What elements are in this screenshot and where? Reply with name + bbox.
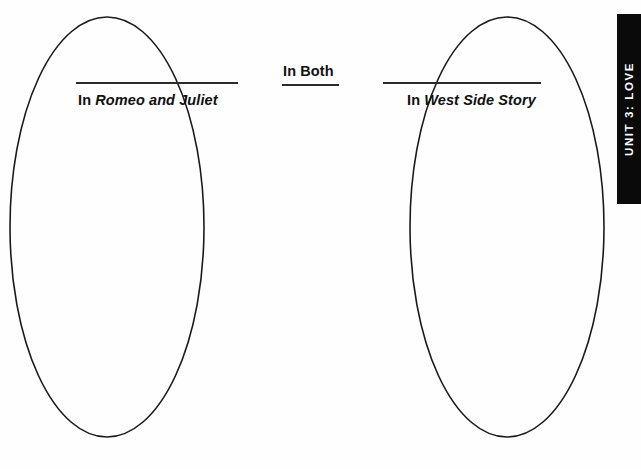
- write-in-rule-right[interactable]: [383, 82, 541, 84]
- label-both-text: In Both: [282, 64, 339, 79]
- label-left-prefix: In: [78, 92, 95, 108]
- label-left-title: Romeo and Juliet: [95, 92, 217, 108]
- unit-tab-label: UNIT 3: LOVE: [623, 62, 635, 156]
- venn-circle-left: [10, 17, 204, 437]
- label-group-left: In Romeo and Juliet: [76, 82, 238, 108]
- venn-circle-right: [410, 17, 604, 437]
- label-right-text: In West Side Story: [383, 93, 541, 108]
- worksheet-page: In Romeo and Juliet In Both In West Side…: [0, 0, 641, 469]
- label-group-both: In Both: [282, 64, 339, 86]
- label-group-right: In West Side Story: [383, 82, 541, 108]
- write-in-rule-both[interactable]: [282, 84, 339, 86]
- label-right-title: West Side Story: [424, 92, 536, 108]
- write-in-rule-left[interactable]: [76, 82, 238, 84]
- unit-tab: UNIT 3: LOVE: [617, 14, 641, 204]
- label-right-prefix: In: [407, 92, 424, 108]
- label-left-text: In Romeo and Juliet: [76, 93, 238, 108]
